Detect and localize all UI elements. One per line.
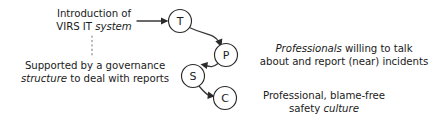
node-P[interactable]: P [215, 44, 238, 67]
node-S[interactable]: S [182, 65, 205, 88]
label-professionals: Professionals willing to talkabout and r… [254, 42, 434, 68]
node-C-label: C [221, 92, 229, 105]
label-support: Supported by a governancestructure to de… [12, 59, 178, 85]
label-support-line1: Supported by a governance [25, 60, 165, 71]
node-P-label: P [223, 49, 230, 62]
label-support-line2-italic: structure [21, 73, 67, 84]
edge-T-to-P [191, 28, 220, 43]
node-S-label: S [190, 70, 197, 83]
label-introduction-line1: Introduction of [57, 8, 131, 19]
label-culture: Professional, blame-freesafety culture [254, 89, 394, 115]
node-C[interactable]: C [214, 87, 237, 110]
label-introduction-line2-italic: system [95, 21, 132, 32]
label-introduction: Introduction ofVIRS IT system [38, 7, 150, 33]
label-culture-line2-italic: culture [323, 103, 358, 114]
label-professionals-line2: about and report (near) incidents [260, 56, 428, 67]
node-T-label: T [176, 15, 184, 28]
edge-S-to-C [199, 86, 209, 96]
label-professionals-line1-italic: Professionals [276, 43, 342, 54]
label-culture-line1: Professional, blame-free [263, 90, 385, 101]
label-support-line2-plain: to deal with reports [67, 73, 169, 84]
arrowhead-input-to-T [161, 17, 169, 24]
node-T[interactable]: T [169, 10, 192, 33]
label-culture-line2-plain: safety [289, 103, 323, 114]
label-introduction-line2-plain: VIRS IT [56, 21, 95, 32]
label-professionals-line1-plain: willing to talk [342, 43, 413, 54]
diagram-canvas: T P S C Introduction ofVIRS IT system Su… [0, 0, 436, 128]
